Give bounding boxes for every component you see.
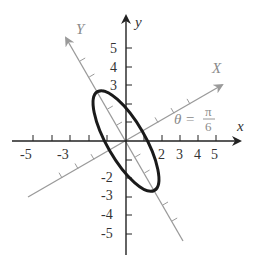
x-tick-label: -3 [57,147,69,162]
theta-label: θ = [174,111,195,127]
rotated-y-axis-label: Y [76,21,86,37]
x-tick-label: 4 [194,147,201,162]
rotated-y-axis [66,38,183,241]
y-axis [126,16,132,255]
x-tick-label: 5 [211,147,218,162]
x-axis-label: x [236,118,244,134]
x-tick-label: 2 [158,147,165,162]
y-tick-label: 4 [110,60,117,75]
y-axis-label: y [133,14,142,30]
y-tick-label: -4 [101,207,113,222]
rotated-axes-diagram: y x Y X -5 -3 2 3 4 5 5 4 3 -2 -3 -4 -5 … [0,0,259,264]
x-tick-label: -5 [20,147,32,162]
rotated-x-axis-label: X [211,60,222,76]
y-tick-label: -2 [101,170,113,185]
y-tick-label: -3 [101,188,113,203]
theta-denominator: 6 [205,119,212,134]
y-tick-label: -5 [101,226,113,241]
theta-numerator: π [205,104,212,119]
x-tick-label: 3 [176,147,183,162]
y-tick-label: 5 [110,41,117,56]
y-tick-label: 3 [110,78,117,93]
